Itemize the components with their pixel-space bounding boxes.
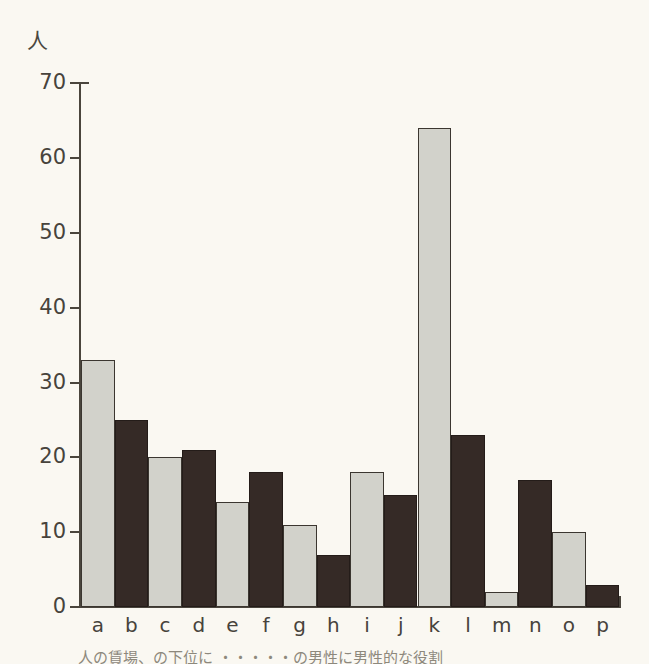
y-axis-tick — [70, 82, 81, 84]
bar-i — [350, 472, 384, 607]
bar-chart-figure: 人 010203040506070 abcdefghijklmnop 人の賃場、… — [0, 0, 649, 664]
x-axis-label-d: d — [182, 614, 216, 636]
x-axis-label-b: b — [115, 614, 149, 636]
x-axis-label-h: h — [317, 614, 351, 636]
bar-n — [518, 480, 552, 607]
x-axis-label-j: j — [384, 614, 418, 636]
y-axis-tick-label: 20 — [22, 446, 66, 467]
y-axis-tick-label: 10 — [22, 521, 66, 542]
bar-g — [283, 525, 317, 607]
bar-o — [552, 532, 586, 607]
x-axis-label-a: a — [81, 614, 115, 636]
y-axis-tick — [70, 157, 81, 159]
y-axis-tick-label: 40 — [22, 297, 66, 318]
bar-j — [384, 495, 418, 607]
y-axis-tick — [70, 531, 81, 533]
bar-a — [81, 360, 115, 607]
x-axis-label-o: o — [552, 614, 586, 636]
y-axis-tick — [70, 456, 81, 458]
y-axis-tick-label: 70 — [22, 72, 66, 93]
x-axis-label-g: g — [283, 614, 317, 636]
x-axis-label-f: f — [249, 614, 283, 636]
bar-f — [249, 472, 283, 607]
bar-k — [418, 128, 452, 607]
y-axis-tick-label: 30 — [22, 372, 66, 393]
y-axis-tick-label: 50 — [22, 222, 66, 243]
bar-d — [182, 450, 216, 607]
y-axis-tick-label: 0 — [22, 596, 66, 617]
x-axis-label-m: m — [485, 614, 519, 636]
bar-m — [485, 592, 519, 607]
bar-p — [586, 585, 620, 607]
x-axis-label-n: n — [518, 614, 552, 636]
bar-e — [216, 502, 250, 607]
y-axis-tick-label: 60 — [22, 147, 66, 168]
y-axis-tick — [70, 606, 81, 608]
x-axis-label-e: e — [216, 614, 250, 636]
x-axis-label-c: c — [148, 614, 182, 636]
y-axis-tick — [70, 307, 81, 309]
x-axis-label-l: l — [451, 614, 485, 636]
bar-l — [451, 435, 485, 607]
x-axis-label-k: k — [418, 614, 452, 636]
bar-b — [115, 420, 149, 607]
figure-caption: 人の賃場、の下位に ・・・・・の男性に男性的な役割 — [78, 650, 443, 664]
bar-h — [317, 555, 351, 607]
bar-c — [148, 457, 182, 607]
y-axis-tick — [70, 232, 81, 234]
x-axis-label-p: p — [586, 614, 620, 636]
x-axis-label-i: i — [350, 614, 384, 636]
y-axis-tick — [70, 382, 81, 384]
plot-area: 010203040506070 abcdefghijklmnop — [0, 0, 649, 664]
